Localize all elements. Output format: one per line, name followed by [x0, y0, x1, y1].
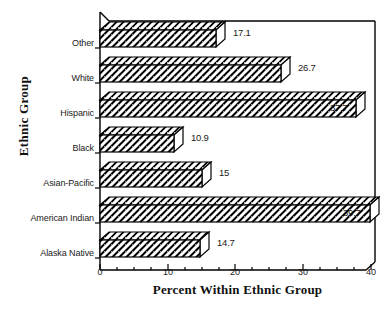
value-label-american-indian: 39.7: [343, 207, 361, 218]
category-label-american-indian: American Indian: [30, 213, 94, 223]
bar-hispanic: [100, 92, 365, 117]
bar-black: [100, 127, 183, 152]
category-label-black: Black: [72, 143, 94, 153]
value-label-white: 26.7: [298, 62, 316, 73]
bar-white: [100, 57, 290, 82]
category-label-alaska-native: Alaska Native: [40, 248, 94, 258]
category-label-white: White: [71, 73, 94, 83]
x-tick-label-40: 40: [356, 267, 386, 277]
bar-other: [100, 22, 225, 47]
bar-alaska-native: [100, 232, 209, 257]
category-label-hispanic: Hispanic: [60, 108, 94, 118]
bar-american-indian: [100, 197, 379, 222]
x-tick-label-10: 10: [153, 267, 183, 277]
value-label-alaska-native: 14.7: [217, 237, 235, 248]
value-label-other: 17.1: [233, 27, 251, 38]
x-tick-label-0: 0: [85, 267, 115, 277]
bar-chart: Ethnic Group Percent Within Ethnic Group: [0, 0, 391, 309]
bar-asian-pacific: [100, 162, 211, 187]
x-tick-label-20: 20: [220, 267, 250, 277]
value-label-asian-pacific: 15: [219, 167, 229, 178]
y-axis-ticks: [95, 48, 100, 258]
category-label-other: Other: [72, 38, 94, 48]
value-label-hispanic: 37.7: [330, 102, 348, 113]
category-label-asian-pacific: Asian-Pacific: [43, 178, 94, 188]
x-tick-label-30: 30: [288, 267, 318, 277]
chart-canvas: [0, 0, 391, 309]
value-label-black: 10.9: [191, 132, 209, 143]
